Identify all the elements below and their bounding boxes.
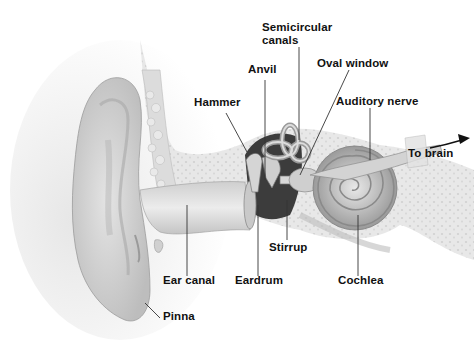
label-ear-canal: Ear canal bbox=[163, 274, 215, 287]
label-anvil: Anvil bbox=[248, 63, 277, 76]
label-oval-window: Oval window bbox=[317, 57, 388, 70]
label-pinna: Pinna bbox=[163, 310, 195, 323]
label-to-brain: To brain bbox=[408, 147, 453, 160]
label-auditory-nerve: Auditory nerve bbox=[336, 95, 419, 108]
label-stirrup: Stirrup bbox=[269, 241, 307, 254]
label-semicircular-canals: Semicircular canals bbox=[262, 21, 332, 47]
label-hammer: Hammer bbox=[194, 96, 241, 109]
label-semicircular-canals-line2: canals bbox=[262, 34, 332, 47]
label-semicircular-canals-line1: Semicircular bbox=[262, 21, 332, 34]
ear-anatomy-diagram: Semicircular canals Anvil Oval window Ha… bbox=[0, 0, 474, 348]
ear-illustration bbox=[0, 0, 474, 348]
label-cochlea: Cochlea bbox=[338, 274, 383, 287]
label-eardrum: Eardrum bbox=[235, 274, 283, 287]
